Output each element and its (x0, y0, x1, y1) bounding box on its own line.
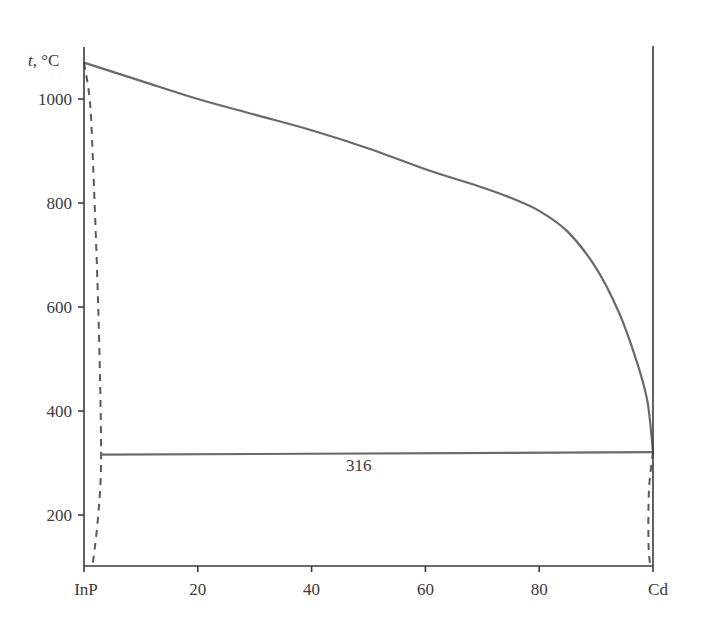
y-tick-label: 400 (47, 402, 73, 421)
y-tick-label: 1000 (38, 90, 72, 109)
inp-side-solvus-line (84, 63, 101, 566)
phase-diagram-chart: 2004006008001000InP20406080Cd t, °C 316 (0, 0, 702, 625)
liquidus-line (84, 63, 653, 452)
y-axis-label: t, °C (28, 51, 59, 70)
x-tick-label: InP (74, 580, 98, 599)
x-tick-label: 60 (417, 580, 434, 599)
y-tick-label: 800 (47, 194, 73, 213)
axis-ticks: 2004006008001000InP20406080Cd (38, 90, 668, 599)
plot-area (84, 63, 653, 566)
y-tick-label: 600 (47, 298, 73, 317)
x-tick-label: 80 (531, 580, 548, 599)
y-tick-label: 200 (47, 506, 73, 525)
x-tick-label: Cd (648, 580, 668, 599)
axes (84, 46, 653, 566)
eutectic-temperature-label: 316 (346, 456, 372, 475)
x-tick-label: 20 (189, 580, 206, 599)
eutectic-line-line (101, 452, 653, 455)
x-tick-label: 40 (303, 580, 320, 599)
